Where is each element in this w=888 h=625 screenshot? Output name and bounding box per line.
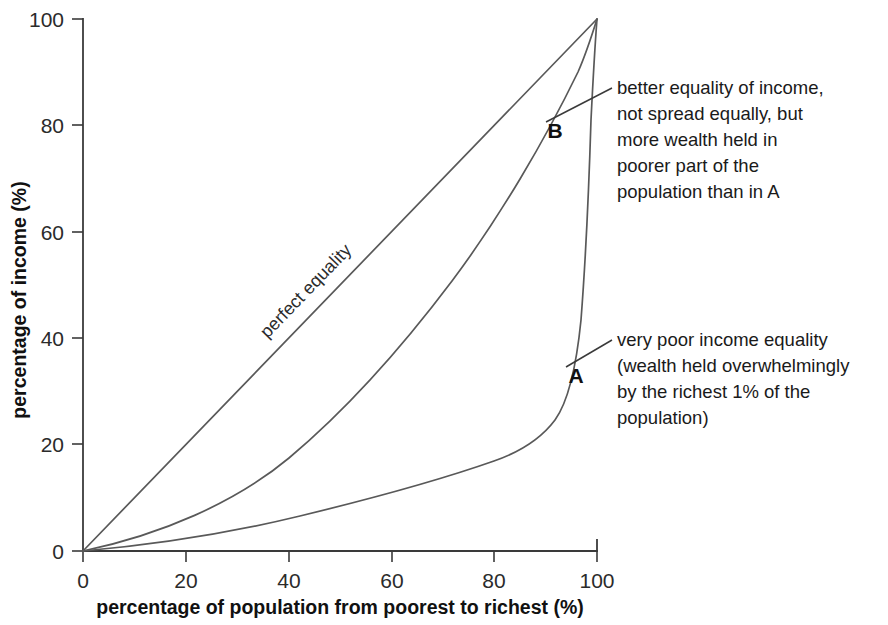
x-tick-label-40: 40 — [277, 569, 300, 592]
x-tick-label-100: 100 — [579, 569, 614, 592]
annotation-a-line-4: population) — [617, 407, 709, 428]
label-perfect-equality: perfect equality — [256, 240, 355, 342]
curve-perfect-equality — [83, 19, 597, 551]
x-tick-label-80: 80 — [482, 569, 505, 592]
annotation-a: very poor income equality (wealth held o… — [617, 329, 850, 428]
annotation-b-line-1: better equality of income, — [617, 77, 824, 98]
annotation-a-line-3: by the richest 1% of the — [617, 381, 810, 402]
y-tick-label-40: 40 — [41, 327, 64, 350]
chart-svg: 100 80 60 40 20 0 0 20 40 60 80 100 perc… — [0, 0, 888, 625]
annotation-a-line-2: (wealth held overwhelmingly — [617, 355, 850, 376]
x-axis-tick-labels: 0 20 40 60 80 100 — [77, 569, 614, 592]
y-axis-title: percentage of income (%) — [8, 181, 30, 418]
x-axis-title: percentage of population from poorest to… — [96, 596, 584, 618]
lorenz-curve-chart: 100 80 60 40 20 0 0 20 40 60 80 100 perc… — [0, 0, 888, 625]
annotation-b-line-5: population than in A — [617, 181, 780, 202]
y-axis-tick-labels: 100 80 60 40 20 0 — [29, 8, 64, 563]
leader-line-b — [546, 88, 612, 122]
y-tick-label-80: 80 — [41, 114, 64, 137]
x-tick-label-0: 0 — [77, 569, 89, 592]
y-tick-label-20: 20 — [41, 433, 64, 456]
y-tick-label-60: 60 — [41, 221, 64, 244]
x-axis-ticks — [83, 551, 597, 562]
curve-marker-b: B — [547, 119, 562, 142]
leader-line-a — [566, 340, 612, 367]
annotation-a-line-1: very poor income equality — [617, 329, 829, 350]
annotation-b: better equality of income, not spread eq… — [617, 77, 824, 202]
annotation-b-line-3: more wealth held in — [617, 129, 777, 150]
y-tick-label-100: 100 — [29, 8, 64, 31]
curve-marker-a: A — [568, 364, 583, 387]
annotation-b-line-4: poorer part of the — [617, 155, 759, 176]
x-tick-label-20: 20 — [174, 569, 197, 592]
y-tick-label-0: 0 — [52, 540, 64, 563]
annotation-b-line-2: not spread equally, but — [617, 103, 803, 124]
x-tick-label-60: 60 — [380, 569, 403, 592]
y-axis-ticks — [72, 19, 83, 551]
